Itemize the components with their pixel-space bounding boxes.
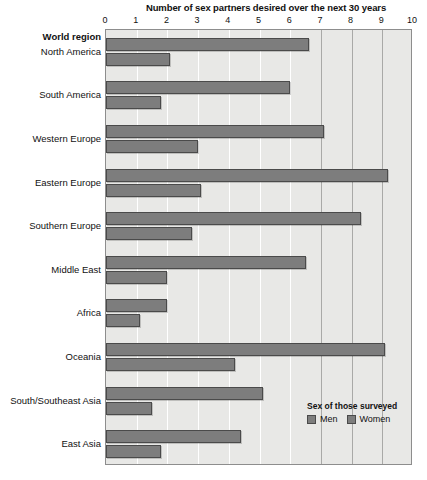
plot-area: Sex of those surveyed Men Women — [105, 29, 412, 465]
legend-item-women[interactable]: Women — [347, 414, 391, 424]
bar-men — [106, 256, 306, 269]
x-tick-label: 5 — [256, 15, 261, 25]
x-tick-label: 2 — [164, 15, 169, 25]
bar-men — [106, 169, 388, 182]
chart-root: Number of sex partners desired over the … — [0, 0, 427, 480]
bar-women — [106, 140, 198, 153]
bar-women — [106, 402, 152, 415]
bar-men — [106, 212, 361, 225]
x-tick-label: 7 — [317, 15, 322, 25]
legend-label-men: Men — [320, 414, 338, 424]
y-category-label: South/Southeast Asia — [0, 395, 101, 406]
x-tick-label: 6 — [287, 15, 292, 25]
bar-women — [106, 184, 201, 197]
bar-men — [106, 38, 309, 51]
legend: Sex of those surveyed Men Women — [304, 399, 412, 427]
x-tick-label: 9 — [379, 15, 384, 25]
legend-title: Sex of those surveyed — [307, 401, 411, 411]
x-tick-label: 1 — [133, 15, 138, 25]
y-category-label: Oceania — [0, 351, 101, 362]
y-category-label: Africa — [0, 307, 101, 318]
x-tick-label: 3 — [195, 15, 200, 25]
x-tick-label: 10 — [407, 15, 417, 25]
bar-women — [106, 271, 167, 284]
y-category-label: Middle East — [0, 264, 101, 275]
x-tick-label: 8 — [348, 15, 353, 25]
y-category-label: South America — [0, 89, 101, 100]
bar-men — [106, 387, 263, 400]
legend-swatch-women-icon — [347, 415, 356, 424]
bar-men — [106, 343, 385, 356]
y-category-label: North America — [0, 46, 101, 57]
x-tick-label: 4 — [225, 15, 230, 25]
y-axis-heading: World region — [0, 31, 101, 42]
y-category-label: Southern Europe — [0, 220, 101, 231]
legend-label-women: Women — [360, 414, 391, 424]
gridline — [290, 30, 291, 464]
x-tick-label: 0 — [102, 15, 107, 25]
y-category-label: Eastern Europe — [0, 177, 101, 188]
bar-men — [106, 299, 167, 312]
bar-women — [106, 358, 235, 371]
legend-swatch-men-icon — [307, 415, 316, 424]
y-category-label: Western Europe — [0, 133, 101, 144]
bar-women — [106, 53, 170, 66]
bar-women — [106, 96, 161, 109]
bar-men — [106, 125, 324, 138]
y-category-label: East Asia — [0, 438, 101, 449]
bar-men — [106, 81, 290, 94]
x-axis-tick-labels: 012345678910 — [0, 15, 427, 28]
legend-items: Men Women — [307, 414, 411, 424]
bar-women — [106, 314, 140, 327]
legend-item-men[interactable]: Men — [307, 414, 338, 424]
chart-title: Number of sex partners desired over the … — [105, 2, 427, 13]
bar-women — [106, 445, 161, 458]
bar-women — [106, 227, 192, 240]
bar-men — [106, 430, 241, 443]
